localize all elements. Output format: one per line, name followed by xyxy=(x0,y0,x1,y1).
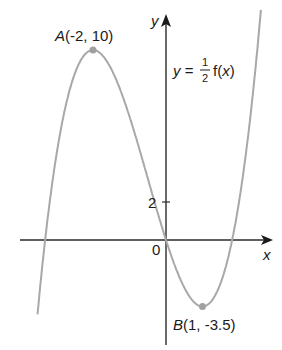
svg-text:y =: y = xyxy=(172,62,194,79)
y-tick-label-2: 2 xyxy=(148,194,156,211)
y-axis-label: y xyxy=(150,12,160,29)
function-label: y = 1 2 f(x) xyxy=(172,56,235,84)
svg-text:f(x): f(x) xyxy=(213,62,235,79)
function-curve xyxy=(38,10,261,315)
fraction-denominator: 2 xyxy=(202,72,208,84)
x-axis-label: x xyxy=(262,246,271,263)
point-b-label: B(1, -3.5) xyxy=(173,316,236,333)
point-a-marker xyxy=(90,47,97,54)
graph-figure: A(-2, 10) B(1, -3.5) y x 0 2 y = 1 2 f(x… xyxy=(0,0,282,350)
point-a-label: A(-2, 10) xyxy=(54,27,113,44)
point-b-marker xyxy=(199,303,206,310)
origin-label: 0 xyxy=(152,241,160,258)
fraction-numerator: 1 xyxy=(202,56,208,68)
